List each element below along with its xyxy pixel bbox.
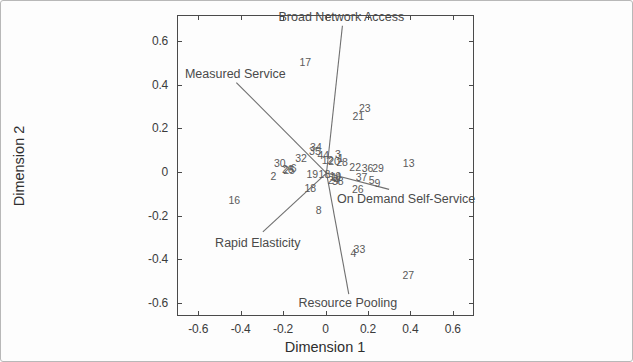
data-point-label: 21 xyxy=(353,111,365,122)
x-tick-mark xyxy=(198,15,199,20)
x-tick-mark xyxy=(410,311,411,316)
y-tick-mark xyxy=(177,172,182,173)
x-axis-title: Dimension 1 xyxy=(285,339,366,355)
y-tick-label: 0 xyxy=(162,165,168,179)
y-tick-label: 0.2 xyxy=(152,121,168,135)
y-tick-mark xyxy=(469,85,474,86)
x-tick-label: 0.2 xyxy=(360,322,376,336)
y-tick-mark xyxy=(469,216,474,217)
y-tick-label: 0.6 xyxy=(152,34,168,48)
x-tick-label: 0.6 xyxy=(445,322,461,336)
y-tick-label: -0.2 xyxy=(148,209,168,223)
y-tick-mark xyxy=(177,85,182,86)
vector-label: Rapid Elasticity xyxy=(215,237,300,250)
vector-overlay xyxy=(178,16,475,317)
vector-label: Measured Service xyxy=(185,67,286,80)
data-point-label: 27 xyxy=(402,269,414,280)
x-tick-mark xyxy=(326,311,327,316)
x-tick-label: -0.2 xyxy=(273,322,293,336)
x-tick-mark xyxy=(198,311,199,316)
data-point-label: 32 xyxy=(295,153,307,164)
y-tick-mark xyxy=(469,41,474,42)
x-tick-mark xyxy=(453,15,454,20)
data-point-label: 8 xyxy=(316,204,322,215)
vector-label: Resource Pooling xyxy=(298,297,397,310)
y-tick-mark xyxy=(177,303,182,304)
data-point-label: 18 xyxy=(304,182,316,193)
data-point-label: 28 xyxy=(336,156,348,167)
y-tick-mark xyxy=(177,128,182,129)
data-point-label: 17 xyxy=(300,57,312,68)
y-axis-title: Dimension 2 xyxy=(11,126,27,207)
y-tick-label: -0.4 xyxy=(148,252,168,266)
data-point-label: 19 xyxy=(307,169,319,180)
x-tick-mark xyxy=(410,15,411,20)
data-point-label: 13 xyxy=(403,158,415,169)
vector-label: Broad Network Access xyxy=(279,10,405,23)
y-tick-mark xyxy=(177,259,182,260)
y-tick-mark xyxy=(469,172,474,173)
vector-label: On Demand Self-Service xyxy=(337,193,475,206)
y-tick-label: 0.4 xyxy=(152,78,168,92)
x-tick-label: 0 xyxy=(322,322,328,336)
y-tick-label: -0.6 xyxy=(148,296,168,310)
x-tick-mark xyxy=(241,311,242,316)
y-tick-mark xyxy=(469,259,474,260)
x-tick-mark xyxy=(283,311,284,316)
vector-line xyxy=(327,173,349,294)
x-tick-mark xyxy=(368,311,369,316)
y-tick-mark xyxy=(469,128,474,129)
x-tick-label: 0.4 xyxy=(402,322,418,336)
data-point-label: 26 xyxy=(282,164,294,175)
data-point-label: 38 xyxy=(332,176,344,187)
data-point-label: 37 xyxy=(356,172,368,183)
x-tick-mark xyxy=(241,15,242,20)
x-tick-label: -0.4 xyxy=(231,322,251,336)
y-tick-mark xyxy=(469,303,474,304)
y-tick-mark xyxy=(177,41,182,42)
data-point-label: 9 xyxy=(375,178,381,189)
data-point-label: 33 xyxy=(354,244,366,255)
data-point-label: 2 xyxy=(271,171,277,182)
figure-panel: Dimension 2 Dimension 1 -0.6-0.4-0.200.2… xyxy=(0,0,633,362)
data-point-label: 29 xyxy=(372,162,384,173)
x-tick-mark xyxy=(453,311,454,316)
y-tick-mark xyxy=(177,216,182,217)
x-tick-label: -0.6 xyxy=(188,322,208,336)
data-point-label: 16 xyxy=(228,195,240,206)
